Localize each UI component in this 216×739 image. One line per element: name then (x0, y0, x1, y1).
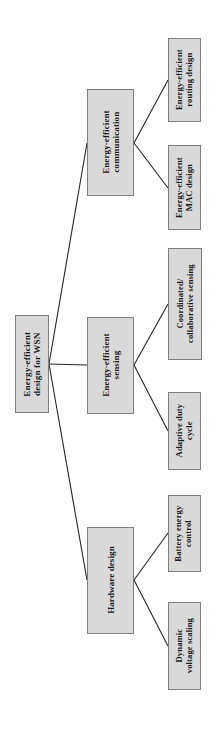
edge-root-to-communication (49, 143, 87, 364)
node-label-root: Energy-efficient design for WSN (22, 332, 43, 397)
edge-sensing-to-duty (134, 365, 168, 431)
edge-hardware-to-dvs (134, 580, 168, 646)
node-label-sensing: Energy-efficient sensing (100, 334, 120, 398)
node-label-mac: Energy-efficient MAC design (175, 157, 194, 218)
node-label-duty: Adaptive duty cycle (175, 404, 194, 458)
edge-sensing-to-coordinated (134, 304, 168, 365)
edge-root-to-hardware (49, 364, 87, 580)
node-routing[interactable]: Energy-efficient routing design (168, 38, 201, 122)
edge-root-to-sensing (49, 364, 87, 365)
node-root[interactable]: Energy-efficient design for WSN (15, 315, 49, 413)
node-label-coordinated: Coordinated/ collaborative sensing (175, 265, 194, 344)
node-hardware[interactable]: Hardware design (87, 527, 134, 634)
node-sensing[interactable]: Energy-efficient sensing (87, 317, 134, 414)
edge-hardware-to-battery (134, 533, 168, 580)
node-mac[interactable]: Energy-efficient MAC design (168, 145, 201, 230)
node-label-routing: Energy-efficient routing design (175, 50, 194, 111)
edge-communication-to-routing (134, 80, 168, 143)
node-label-dvs: Dynamic voltage scaling (175, 618, 194, 673)
node-coordinated[interactable]: Coordinated/ collaborative sensing (168, 248, 202, 360)
node-communication[interactable]: Energy-efficient communication (87, 89, 134, 196)
diagram-canvas: Energy-efficient design for WSNEnergy-ef… (0, 0, 216, 739)
node-label-battery: Battery energy control (175, 505, 194, 561)
node-duty[interactable]: Adaptive duty cycle (168, 392, 201, 470)
node-dvs[interactable]: Dynamic voltage scaling (168, 602, 201, 690)
edge-communication-to-mac (134, 143, 168, 188)
node-label-hardware: Hardware design (105, 547, 115, 615)
node-label-communication: Energy-efficient communication (100, 111, 120, 175)
node-battery[interactable]: Battery energy control (168, 495, 201, 572)
